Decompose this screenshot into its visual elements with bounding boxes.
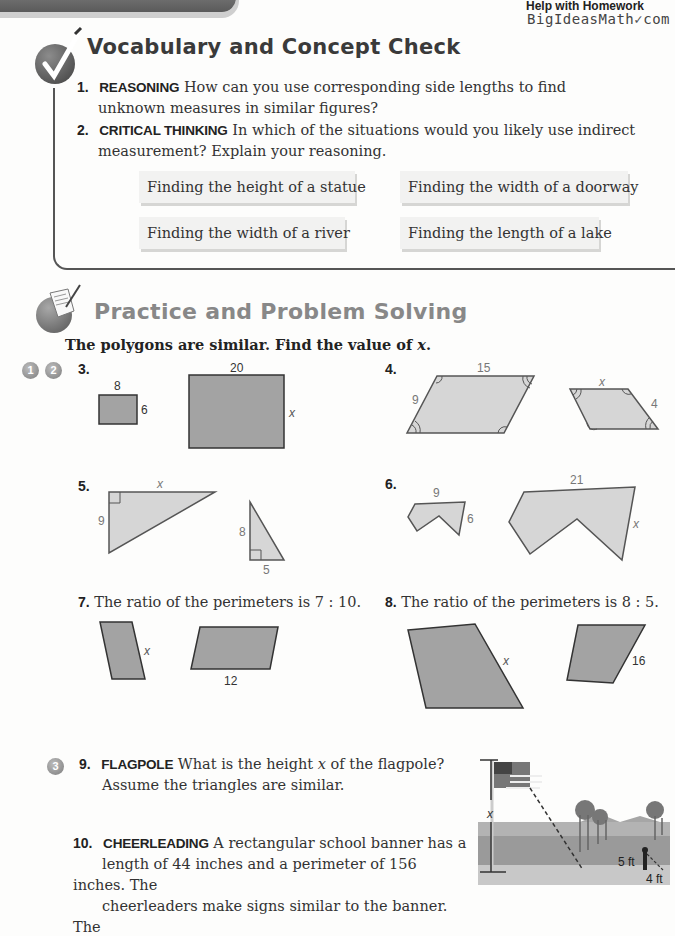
p6-small-side-label: 6 — [467, 512, 474, 526]
example-badge-3[interactable]: 3 — [47, 758, 64, 775]
p5-large-side-label: 9 — [98, 514, 105, 528]
p5-small-side-label: 8 — [239, 525, 246, 539]
p4-large-top-label: 15 — [477, 361, 490, 375]
section-title-practice: Practice and Problem Solving — [94, 299, 468, 324]
problem-5-figure — [60, 470, 340, 590]
p6-large-top-label: 21 — [570, 473, 583, 487]
choice-lake-length: Finding the length of a lake — [400, 217, 599, 249]
person-height-label: 5 ft — [618, 855, 635, 869]
choice-river-width: Finding the width of a river — [139, 217, 345, 249]
shadow-length-label: 4 ft — [646, 872, 663, 886]
p7-right-bottom-label: 12 — [224, 674, 237, 688]
problem-9: 9. FLAGPOLE What is the height x of the … — [79, 754, 459, 796]
choice-statue-height: Finding the height of a statue — [139, 171, 355, 203]
p4-small-top-label: x — [599, 375, 605, 389]
problem-7-figure — [60, 585, 360, 695]
p3-small-side-label: 6 — [141, 403, 148, 417]
p4-small-side-label: 4 — [651, 397, 658, 411]
p6-large-side-label: x — [633, 517, 639, 531]
p3-small-top-label: 8 — [114, 379, 121, 393]
problem-8-figure — [370, 585, 670, 715]
p4-large-side-label: 9 — [412, 393, 419, 407]
problem-10: 10. CHEERLEADING A rectangular school ba… — [73, 833, 473, 936]
help-with-homework-link[interactable]: Help with Homework BigIdeasMath✓com — [526, 0, 670, 26]
checkmark-icon — [35, 44, 75, 84]
choice-doorway-width: Finding the width of a doorway — [400, 171, 628, 203]
p3-large-top-label: 20 — [230, 361, 243, 375]
question-1: 1. REASONING How can you use correspondi… — [77, 77, 637, 119]
question-2: 2. CRITICAL THINKING In which of the sit… — [77, 120, 657, 162]
problem-4-figure — [370, 360, 670, 460]
problem-6-figure — [370, 470, 670, 570]
notepad-pencil-icon — [36, 297, 72, 333]
checkmark-logo-icon: ✓ — [634, 11, 643, 27]
p5-small-bottom-label: 5 — [263, 563, 270, 577]
chapter-header-bar — [0, 0, 236, 12]
p5-large-top-label: x — [157, 477, 163, 491]
p6-small-top-label: 9 — [433, 486, 440, 500]
problem-3-figure — [0, 360, 330, 470]
p8-right-side-label: 16 — [632, 654, 645, 668]
p3-large-side-label: x — [289, 406, 295, 420]
p7-left-side-label: x — [144, 644, 150, 658]
website-label: BigIdeasMath✓com — [526, 12, 670, 26]
p8-left-side-label: x — [503, 654, 509, 668]
instructions: The polygons are similar. Find the value… — [65, 336, 431, 353]
flagpole-height-label: x — [487, 807, 493, 821]
section-title-vocabulary: Vocabulary and Concept Check — [87, 35, 461, 59]
